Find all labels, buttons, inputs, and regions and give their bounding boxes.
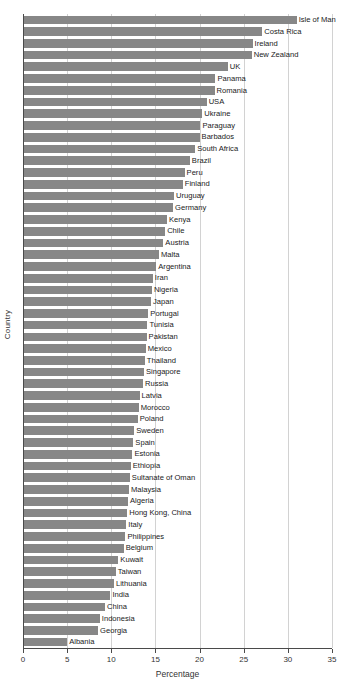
bar-row[interactable]: Malaysia [23,485,332,494]
bar-row[interactable]: China [23,603,332,612]
bar-row[interactable]: Russia [23,379,332,388]
bar-row[interactable]: Sultanate of Oman [23,473,332,482]
bar[interactable] [23,509,127,518]
bar-row[interactable]: Lithuania [23,579,332,588]
bar[interactable] [23,62,228,71]
bar-row[interactable]: South Africa [23,145,332,154]
bar[interactable] [23,133,200,142]
bar[interactable] [23,121,200,130]
bar[interactable] [23,156,190,165]
bar[interactable] [23,333,147,342]
bar-row[interactable]: Indonesia [23,614,332,623]
bar-row[interactable]: New Zealand [23,51,332,60]
bar[interactable] [23,532,125,541]
bar-row[interactable]: Belgium [23,544,332,553]
bar[interactable] [23,450,132,459]
bar[interactable] [23,638,67,647]
bar-row[interactable]: Iran [23,274,332,283]
bar-row[interactable]: Uruguay [23,192,332,201]
bar-row[interactable]: Hong Kong, China [23,509,332,518]
bar[interactable] [23,250,159,259]
bar-row[interactable]: Kenya [23,215,332,224]
bar-row[interactable]: Austria [23,239,332,248]
bar[interactable] [23,391,140,400]
bar[interactable] [23,403,139,412]
bar-row[interactable]: Georgia [23,626,332,635]
bar[interactable] [23,262,156,271]
bar[interactable] [23,86,215,95]
bar[interactable] [23,98,207,107]
bar[interactable] [23,368,144,377]
bar[interactable] [23,544,124,553]
bar[interactable] [23,579,114,588]
bar[interactable] [23,274,153,283]
bar[interactable] [23,321,147,330]
bar-row[interactable]: Taiwan [23,567,332,576]
bar-row[interactable]: Nigeria [23,286,332,295]
bar[interactable] [23,485,129,494]
bar-row[interactable]: UK [23,62,332,71]
bar[interactable] [23,379,143,388]
bar-row[interactable]: Albania [23,638,332,647]
bar-row[interactable]: Ukraine [23,109,332,118]
bar[interactable] [23,497,128,506]
bar[interactable] [23,203,173,212]
bar-row[interactable]: Ethiopia [23,462,332,471]
bar-row[interactable]: Finland [23,180,332,189]
bar-row[interactable]: Singapore [23,368,332,377]
bar-row[interactable]: Argentina [23,262,332,271]
bar[interactable] [23,462,131,471]
bar-row[interactable]: Malta [23,250,332,259]
bar[interactable] [23,109,202,118]
bar-row[interactable]: Sweden [23,426,332,435]
bar-row[interactable]: Brazil [23,156,332,165]
bar[interactable] [23,239,163,248]
bar[interactable] [23,74,215,83]
bar[interactable] [23,27,262,36]
bar-row[interactable]: Philippines [23,532,332,541]
bar-row[interactable]: Pakistan [23,333,332,342]
bar[interactable] [23,180,183,189]
bar[interactable] [23,227,165,236]
bar[interactable] [23,192,174,201]
bar-row[interactable]: Ireland [23,39,332,48]
bar-row[interactable]: Costa Rica [23,27,332,36]
bar-row[interactable]: Romania [23,86,332,95]
bar-row[interactable]: Panama [23,74,332,83]
bar-row[interactable]: Estonia [23,450,332,459]
bar[interactable] [23,415,138,424]
bar-row[interactable]: India [23,591,332,600]
bar[interactable] [23,215,167,224]
bar[interactable] [23,473,130,482]
bar-row[interactable]: Paraguay [23,121,332,130]
bar[interactable] [23,603,105,612]
bar-row[interactable]: Italy [23,520,332,529]
bar[interactable] [23,614,100,623]
bar-row[interactable]: Japan [23,297,332,306]
bar[interactable] [23,356,145,365]
bar[interactable] [23,591,110,600]
bar-row[interactable]: Isle of Man [23,16,332,25]
bar-row[interactable]: Morocco [23,403,332,412]
bar[interactable] [23,39,253,48]
bar[interactable] [23,286,152,295]
bar[interactable] [23,344,146,353]
bar[interactable] [23,145,195,154]
bar[interactable] [23,309,148,318]
bar[interactable] [23,567,116,576]
bar-row[interactable]: Algeria [23,497,332,506]
bar[interactable] [23,297,151,306]
bar-row[interactable]: USA [23,98,332,107]
bar[interactable] [23,426,134,435]
bar-row[interactable]: Thailand [23,356,332,365]
bar[interactable] [23,626,98,635]
bar-row[interactable]: Kuwait [23,556,332,565]
bar-row[interactable]: Mexico [23,344,332,353]
bar-row[interactable]: Chile [23,227,332,236]
bar-row[interactable]: Germany [23,203,332,212]
bar[interactable] [23,168,185,177]
bar-row[interactable]: Poland [23,415,332,424]
bar[interactable] [23,16,297,25]
bar-row[interactable]: Spain [23,438,332,447]
bar-row[interactable]: Tunisia [23,321,332,330]
